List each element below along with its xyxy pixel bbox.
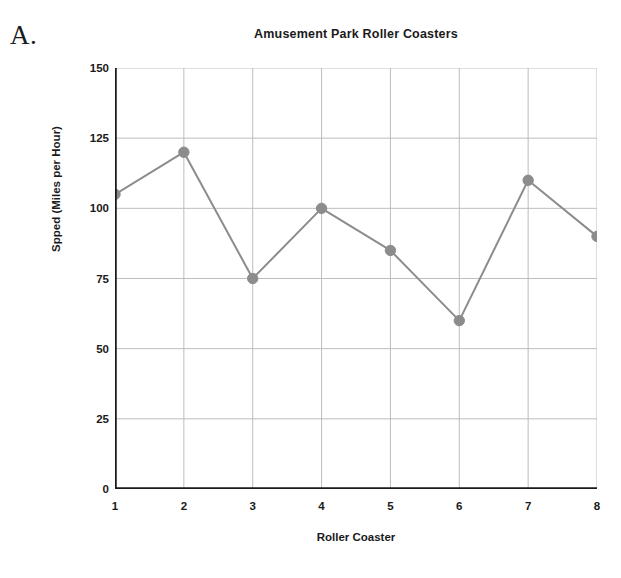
grid-lines — [115, 68, 597, 489]
x-axis-title: Roller Coaster — [115, 531, 597, 543]
x-axis-tick-label: 1 — [100, 500, 130, 512]
y-axis-title: Spped (Miles per Hour) — [50, 94, 62, 284]
data-point-marker — [248, 273, 258, 283]
data-point-marker — [179, 147, 189, 157]
y-axis-tick-label: 100 — [67, 202, 109, 214]
y-axis-tick-labels: 0255075100125150 — [61, 68, 109, 489]
data-point-marker — [316, 203, 326, 213]
x-axis-tick-label: 8 — [582, 500, 612, 512]
line-chart: Amusement Park Roller Coasters 025507510… — [0, 0, 621, 578]
data-series — [115, 147, 597, 326]
x-axis-tick-label: 7 — [513, 500, 543, 512]
y-axis-tick-label: 75 — [67, 273, 109, 285]
y-axis-tick-label: 25 — [67, 413, 109, 425]
x-axis-tick-label: 4 — [307, 500, 337, 512]
y-axis-tick-label: 150 — [67, 62, 109, 74]
data-point-marker — [454, 315, 464, 325]
plot-area — [115, 68, 597, 489]
y-axis-tick-label: 125 — [67, 132, 109, 144]
x-axis-tick-label: 6 — [444, 500, 474, 512]
y-axis-tick-label: 50 — [67, 343, 109, 355]
data-point-marker — [385, 245, 395, 255]
y-axis-tick-label: 0 — [67, 483, 109, 495]
chart-title: Amusement Park Roller Coasters — [115, 27, 597, 41]
x-axis-tick-labels: 12345678 — [115, 500, 597, 518]
data-point-marker — [523, 175, 533, 185]
x-axis-tick-label: 3 — [238, 500, 268, 512]
plot-svg — [115, 68, 597, 489]
x-axis-tick-label: 5 — [375, 500, 405, 512]
x-axis-tick-label: 2 — [169, 500, 199, 512]
